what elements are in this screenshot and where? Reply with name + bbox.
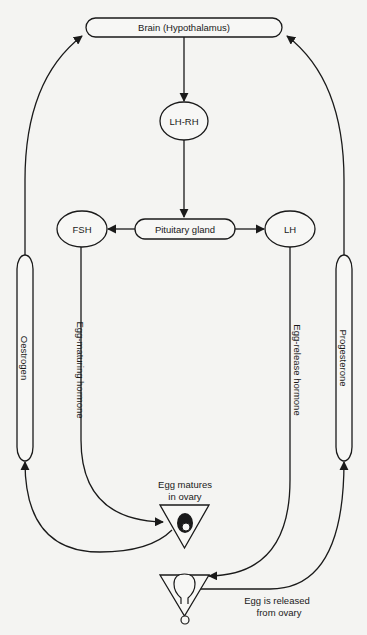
node-lhrh: LH-RH: [160, 102, 208, 140]
hormone-cycle-diagram: Brain (Hypothalamus) LH-RH Pituitary gla…: [0, 0, 367, 635]
node-egg-matures: Egg matures in ovary: [158, 479, 212, 548]
node-pituitary-label: Pituitary gland: [155, 224, 215, 235]
node-oestrogen: Oestrogen: [17, 255, 33, 461]
node-lh-label: LH: [284, 224, 296, 235]
egg-nucleus-icon: [182, 523, 190, 531]
node-pituitary: Pituitary gland: [135, 219, 235, 239]
node-progesterone-label: Progesterone: [338, 329, 349, 386]
node-lhrh-label: LH-RH: [169, 116, 198, 127]
node-progesterone: Progesterone: [336, 255, 352, 461]
arrow-egg-matures-to-oestrogen: [25, 462, 172, 552]
arrow-egg-released-to-progesterone: [200, 462, 344, 589]
egg-released-label-line2: from ovary: [257, 607, 302, 618]
node-egg-released: Egg is released from ovary: [160, 574, 310, 624]
edge-label-egg-maturing-hormone: Egg-maturing hormone: [75, 321, 86, 418]
node-brain-label: Brain (Hypothalamus): [138, 22, 230, 33]
arrow-fsh-to-egg-matures: [81, 247, 163, 522]
egg-matures-label-line1: Egg matures: [158, 479, 212, 490]
egg-matures-label-line2: in ovary: [168, 491, 202, 502]
node-brain: Brain (Hypothalamus): [86, 18, 282, 37]
egg-released-label-line1: Egg is released: [244, 595, 309, 606]
released-egg-dot-icon: [181, 616, 189, 624]
node-oestrogen-label: Oestrogen: [19, 336, 30, 380]
node-lh: LH: [265, 211, 315, 247]
node-fsh: FSH: [57, 211, 107, 247]
node-fsh-label: FSH: [73, 224, 92, 235]
edge-label-egg-release-hormone: Egg-release hormone: [292, 324, 303, 415]
arrow-lh-to-egg-released: [209, 247, 290, 576]
